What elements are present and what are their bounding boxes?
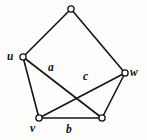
edge-label-a: a [48,62,54,74]
vertex-label-w: w [130,67,138,79]
graph-canvas [0,0,147,140]
edge-label-b: b [66,124,72,136]
vertex-label-v: v [30,123,35,135]
vertex-v [36,115,42,121]
vertex-bottomright [99,115,105,121]
edge-u-bottomright [23,57,102,118]
vertex-group [20,6,128,121]
vertex-top [68,6,74,12]
vertex-u [20,54,26,60]
vertex-w [122,70,128,76]
edge-top-w [71,9,125,73]
graph-diagram-figure: u w v a b c [0,0,147,140]
edge-u-top [23,9,71,57]
edge-group [23,9,125,118]
edge-label-c: c [83,71,88,83]
edge-u-v [23,57,39,118]
vertex-label-u: u [7,51,13,63]
